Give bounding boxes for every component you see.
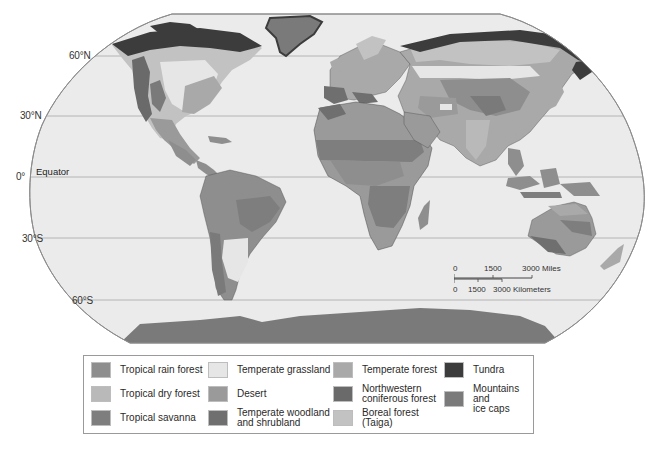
swatch-temperate-forest — [333, 362, 353, 378]
swatch-tropical-rain-forest — [91, 362, 111, 378]
legend-item-temperate-forest: Temperate forest — [333, 362, 437, 378]
scale-line — [454, 274, 536, 284]
lat-label-60n: 60°N — [69, 50, 91, 61]
lat-label-equator-degrees: 0° — [16, 171, 25, 182]
swatch-tundra — [444, 362, 464, 378]
scale-miles-1500: 1500 — [484, 264, 502, 273]
legend-item-temperate-grassland: Temperate grassland — [208, 362, 330, 378]
swatch-temperate-grassland — [208, 362, 228, 378]
scale-bar: 0 1500 3000 Miles 0 1500 3000 Kilometers — [448, 264, 568, 300]
scale-miles-0: 0 — [453, 264, 457, 273]
legend-item-northwestern-coniferous-forest: Northwestern coniferous forest — [333, 384, 436, 404]
legend-item-tropical-savanna: Tropical savanna — [91, 410, 196, 426]
swatch-tropical-savanna — [91, 410, 111, 426]
legend-item-desert: Desert — [208, 386, 266, 402]
scale-km-0: 0 — [453, 285, 457, 294]
legend-item-tropical-dry-forest: Tropical dry forest — [91, 386, 200, 402]
legend-item-temperate-woodland: Temperate woodland and shrubland — [208, 408, 330, 428]
legend-item-boreal-forest: Boreal forest (Taiga) — [333, 408, 419, 428]
swatch-temperate-woodland — [208, 410, 228, 426]
lat-label-30n: 30°N — [20, 110, 42, 121]
swatch-desert — [208, 386, 228, 402]
equator-label: Equator — [36, 166, 69, 177]
lat-label-60s: 60°S — [72, 295, 93, 306]
legend: Tropical rain forest Tropical dry forest… — [83, 355, 534, 434]
legend-item-tundra: Tundra — [444, 362, 504, 378]
swatch-northwestern-coniferous-forest — [333, 386, 353, 402]
swatch-boreal-forest — [333, 410, 353, 426]
lat-label-30s: 30°S — [22, 233, 43, 244]
swatch-tropical-dry-forest — [91, 386, 111, 402]
scale-miles-3000: 3000 Miles — [522, 264, 561, 273]
scale-km-1500: 1500 — [468, 285, 486, 294]
legend-item-tropical-rain-forest: Tropical rain forest — [91, 362, 202, 378]
scale-km-3000: 3000 Kilometers — [493, 285, 551, 294]
swatch-mountains-ice-caps — [444, 391, 464, 407]
legend-item-mountains-ice-caps: Mountains and ice caps — [444, 384, 533, 414]
